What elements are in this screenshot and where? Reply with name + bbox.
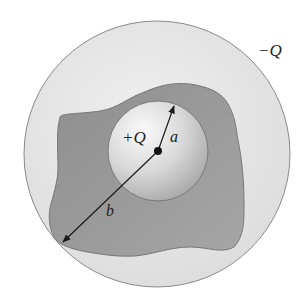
center-dot <box>154 147 162 155</box>
inner-charge-label: +Q <box>122 128 146 147</box>
outer-charge-label: −Q <box>258 41 282 60</box>
radius-b-label: b <box>106 202 114 219</box>
radius-a-label: a <box>170 128 178 145</box>
capacitor-diagram: −Q +Q a b <box>0 0 305 296</box>
